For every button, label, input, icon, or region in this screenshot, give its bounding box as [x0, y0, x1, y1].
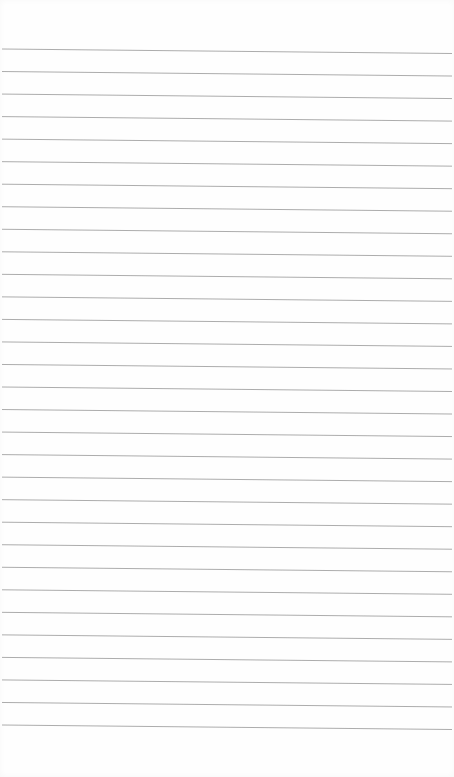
ruled-line: [2, 49, 452, 54]
ruled-line: [2, 522, 452, 527]
ruled-line: [2, 410, 452, 415]
ruled-line: [2, 207, 452, 212]
ruled-line: [2, 364, 452, 369]
ruled-line: [2, 702, 452, 707]
ruled-line: [2, 590, 452, 595]
ruled-line: [2, 319, 452, 324]
ruled-line: [2, 657, 452, 662]
ruled-line: [2, 477, 452, 482]
ruled-line: [2, 274, 452, 279]
ruled-line: [2, 139, 452, 144]
ruled-line: [2, 94, 452, 99]
ruled-line: [2, 567, 452, 572]
ruled-line: [2, 612, 452, 617]
ruled-line: [2, 342, 452, 347]
ruled-line: [2, 635, 452, 640]
ruled-line: [2, 432, 452, 437]
ruled-line: [2, 117, 452, 122]
ruled-line: [2, 252, 452, 256]
lined-paper-page: [0, 0, 454, 777]
ruled-line: [2, 725, 452, 730]
ruled-line: [2, 184, 452, 189]
ruled-line: [2, 455, 452, 460]
ruled-lines: [0, 0, 454, 777]
ruled-line: [2, 297, 452, 302]
ruled-line: [2, 500, 452, 505]
ruled-line: [2, 545, 452, 550]
ruled-line: [2, 162, 452, 167]
ruled-line: [2, 387, 452, 392]
ruled-line: [2, 680, 452, 685]
ruled-line: [2, 72, 452, 77]
ruled-line: [2, 229, 452, 234]
